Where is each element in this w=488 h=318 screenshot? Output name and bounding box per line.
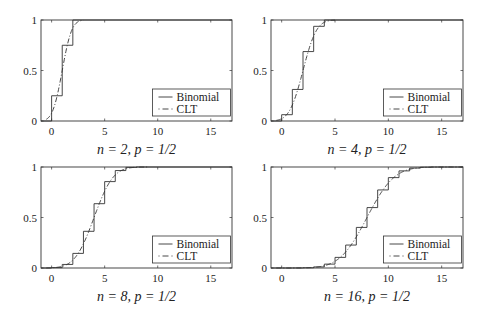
legend-label-clt: CLT bbox=[177, 103, 198, 115]
x-tick-label: 10 bbox=[152, 272, 164, 284]
x-tick-label: 5 bbox=[102, 125, 108, 137]
y-tick-label: 0 bbox=[262, 115, 268, 127]
x-tick-label: 10 bbox=[152, 125, 164, 137]
subplot-title: n = 4, p = 1/2 bbox=[328, 142, 407, 157]
x-tick-label: 5 bbox=[332, 125, 338, 137]
x-tick-label: 15 bbox=[205, 272, 217, 284]
y-tick-label: 0 bbox=[262, 262, 268, 274]
legend-label-clt: CLT bbox=[408, 103, 429, 115]
legend-label-binomial: Binomial bbox=[177, 91, 220, 103]
y-tick-label: 0.5 bbox=[253, 65, 267, 77]
x-tick-label: 0 bbox=[49, 272, 55, 284]
subplot-n16: n = 16, p = 1/2 05101500.51BinomialCLT bbox=[253, 161, 463, 304]
x-tick-label: 5 bbox=[102, 272, 108, 284]
y-tick-label: 0.5 bbox=[23, 65, 37, 77]
subplot-n4: n = 4, p = 1/2 05101500.51BinomialCLT bbox=[253, 14, 463, 157]
y-tick-label: 1 bbox=[32, 14, 38, 26]
y-tick-label: 0 bbox=[32, 115, 38, 127]
legend-label-binomial: Binomial bbox=[408, 91, 451, 103]
x-tick-label: 15 bbox=[436, 125, 448, 137]
subplot-title: n = 16, p = 1/2 bbox=[324, 289, 410, 304]
subplot-n8: n = 8, p = 1/2 05101500.51BinomialCLT bbox=[23, 161, 232, 304]
legend-label-clt: CLT bbox=[408, 250, 429, 262]
y-tick-label: 1 bbox=[32, 161, 38, 173]
clt-approx-line bbox=[276, 20, 335, 120]
subplot-n2: n = 2, p = 1/2 05101500.51BinomialCLT bbox=[23, 14, 232, 157]
legend: BinomialCLT bbox=[153, 89, 231, 116]
x-tick-label: 5 bbox=[332, 272, 338, 284]
legend: BinomialCLT bbox=[153, 236, 231, 263]
legend: BinomialCLT bbox=[384, 236, 462, 263]
y-tick-label: 0 bbox=[32, 262, 38, 274]
clt-approx-line bbox=[46, 167, 147, 268]
x-tick-label: 10 bbox=[383, 272, 395, 284]
legend-label-binomial: Binomial bbox=[408, 238, 451, 250]
x-tick-label: 0 bbox=[279, 272, 285, 284]
legend-label-clt: CLT bbox=[177, 250, 198, 262]
subplot-title: n = 8, p = 1/2 bbox=[97, 289, 176, 304]
y-tick-label: 1 bbox=[262, 14, 268, 26]
x-tick-label: 15 bbox=[205, 125, 217, 137]
x-tick-label: 0 bbox=[279, 125, 285, 137]
x-tick-label: 0 bbox=[49, 125, 55, 137]
x-tick-label: 15 bbox=[436, 272, 448, 284]
subplot-title: n = 2, p = 1/2 bbox=[97, 142, 176, 157]
figure: n = 2, p = 1/2 05101500.51BinomialCLT n … bbox=[0, 0, 488, 318]
y-tick-label: 0.5 bbox=[253, 212, 267, 224]
legend: BinomialCLT bbox=[384, 89, 462, 116]
legend-label-binomial: Binomial bbox=[177, 238, 220, 250]
y-tick-label: 0.5 bbox=[23, 212, 37, 224]
y-tick-label: 1 bbox=[262, 161, 268, 173]
x-tick-label: 10 bbox=[383, 125, 395, 137]
